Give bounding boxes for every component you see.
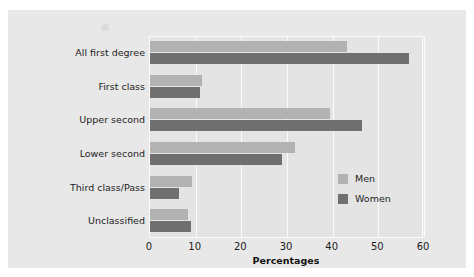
x-tick-label-50: 50: [371, 241, 384, 252]
scan-artifact-speck: [101, 24, 109, 31]
x-tick-label-10: 10: [188, 241, 201, 252]
y-axis-label-5: Unclassified: [15, 215, 145, 226]
bar-men: [150, 209, 188, 220]
bar-women: [150, 221, 191, 232]
bar-women: [150, 53, 409, 64]
x-axis-title: Percentages: [149, 255, 423, 266]
y-axis-label-0: All first degree: [15, 47, 145, 58]
bar-group: [150, 104, 422, 138]
legend-label-men: Men: [355, 173, 375, 184]
bar-group: [150, 37, 422, 71]
chart-legend: MenWomen: [338, 173, 418, 213]
bar-men: [150, 176, 192, 187]
legend-label-women: Women: [355, 193, 391, 204]
x-tick-label-60: 60: [417, 241, 430, 252]
legend-swatch-women: [338, 194, 348, 204]
bar-women: [150, 120, 362, 131]
x-tick-label-40: 40: [325, 241, 338, 252]
y-axis-label-2: Upper second: [15, 114, 145, 125]
bar-women: [150, 188, 179, 199]
chart-figure: All first degreeFirst classUpper secondL…: [0, 0, 474, 277]
bar-women: [150, 154, 282, 165]
chart-panel: All first degreeFirst classUpper secondL…: [8, 10, 466, 268]
x-tick-label-30: 30: [280, 241, 293, 252]
x-tick-label-0: 0: [146, 241, 152, 252]
bar-group: [150, 71, 422, 105]
y-axis-label-1: First class: [15, 81, 145, 92]
y-axis-label-4: Third class/Pass: [15, 182, 145, 193]
bar-men: [150, 142, 295, 153]
bar-men: [150, 41, 347, 52]
x-tick-label-20: 20: [234, 241, 247, 252]
y-axis-label-3: Lower second: [15, 148, 145, 159]
y-axis-category-labels: All first degreeFirst classUpper secondL…: [13, 36, 145, 238]
bar-women: [150, 87, 200, 98]
gridline: [424, 37, 425, 237]
bar-men: [150, 108, 330, 119]
legend-item-men[interactable]: Men: [338, 173, 418, 184]
legend-swatch-men: [338, 174, 348, 184]
x-axis-ticks: 0102030405060: [149, 239, 423, 255]
bar-men: [150, 75, 202, 86]
bar-group: [150, 138, 422, 172]
legend-item-women[interactable]: Women: [338, 193, 418, 204]
